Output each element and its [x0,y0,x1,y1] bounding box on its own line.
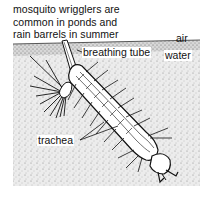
label-trachea: trachea [37,135,74,146]
label-water: water [164,50,192,61]
caption-line-1: mosquito wrigglers are [13,3,120,16]
caption-line-2: common in ponds and [13,16,120,29]
caption: mosquito wrigglers are common in ponds a… [13,3,120,41]
label-breathing-tube: breathing tube [82,47,151,58]
caption-line-3: rain barrels in summer [13,28,120,41]
label-air: air [175,33,189,44]
